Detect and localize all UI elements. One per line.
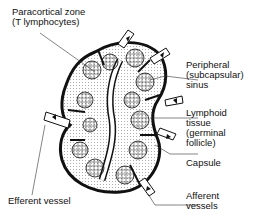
label-capsule: Capsule xyxy=(186,158,221,168)
label-peripheral-sinus-sub2: sinus xyxy=(186,80,208,90)
label-efferent-vessel: Efferent vessel xyxy=(8,196,71,206)
label-lymphoid-tissue-sub3: follicle) xyxy=(186,138,216,148)
label-paracortical-zone-sub: (T lymphocytes) xyxy=(12,17,79,27)
label-afferent-vessels-sub: vessels xyxy=(186,201,218,211)
